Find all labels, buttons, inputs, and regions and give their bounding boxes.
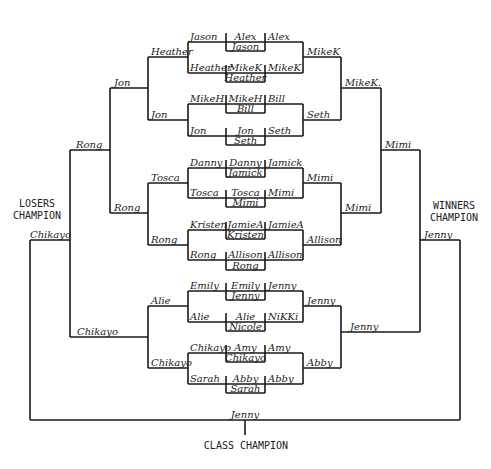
winners-r3-name: Jenny <box>348 321 379 332</box>
losers-champion-label: CHAMPION <box>13 210 61 221</box>
losers-r4-name: Rong <box>75 139 102 150</box>
winners-r4-name: Mimi <box>384 139 411 150</box>
winners-r1-name: Jenny <box>266 280 297 291</box>
losers-r1-name: Tosca <box>190 187 219 198</box>
losers-champion-name: Chikayo <box>30 229 71 240</box>
losers-r1-name: MikeH <box>189 93 224 104</box>
losers-r2-name: Jon <box>149 109 167 120</box>
losers-r1-name: Alie <box>189 311 210 322</box>
winners-r1-name: Seth <box>268 125 291 136</box>
losers-r1-name: Jon <box>188 125 206 136</box>
winners-r2-name: MikeK <box>306 46 340 57</box>
losers-r1-name: Heather <box>189 62 233 73</box>
match-bottom-name: Nicole <box>228 321 262 332</box>
losers-r1-name: Danny <box>189 157 223 168</box>
winners-names: Alex MikeK Bill Seth Jamick Mimi JamieA … <box>266 31 453 384</box>
losers-r2-name: Alie <box>150 295 171 306</box>
winners-r3-name: Mimi <box>344 202 371 213</box>
match-bottom-name: Jason <box>230 41 260 52</box>
winners-r1-name: MikeK <box>267 62 301 73</box>
losers-r1-name: Chikayo <box>190 342 231 353</box>
losers-r3-name: Chikayo <box>77 326 118 337</box>
winners-champion-name: Jenny <box>422 229 453 240</box>
center-boxes <box>226 33 265 393</box>
match-bottom-name: Jamick <box>226 167 262 178</box>
losers-r3-name: Rong <box>113 202 140 213</box>
winners-r2-name: Mimi <box>306 172 333 183</box>
class-champion-label: CLASS CHAMPION <box>204 440 288 451</box>
winners-r1-name: NiKKi <box>267 311 298 322</box>
winners-r2-name: Jenny <box>305 295 336 306</box>
losers-r1-name: Kristen <box>189 219 227 230</box>
final-lines <box>30 420 460 435</box>
winners-r2-name: Abby <box>306 357 333 368</box>
losers-r2-name: Heather <box>150 46 194 57</box>
match-bottom-name: Kristen <box>226 229 264 240</box>
winners-r1-name: Mimi <box>267 187 294 198</box>
winners-r2-name: Allison <box>306 234 341 245</box>
losers-r1-name: Emily <box>189 280 219 291</box>
losers-r2-name: Chikayo <box>151 357 192 368</box>
winners-r2-name: Seth <box>307 109 330 120</box>
winners-r3-name: MikeK. <box>344 77 381 88</box>
winners-r1-name: Abby <box>267 373 294 384</box>
match-bottom-name: Rong <box>231 260 258 271</box>
match-bottom-name: Jenny <box>229 290 260 301</box>
losers-r2-name: Tosca <box>151 172 180 183</box>
losers-r3-name: Jon <box>112 77 130 88</box>
winners-r1-name: Alex <box>267 31 290 42</box>
center-names: Alex Jason MikeK Heather MikeH Bill Jon … <box>224 31 268 394</box>
winners-champion-label: CHAMPION <box>430 212 478 223</box>
match-bottom-name: Seth <box>234 135 257 146</box>
winners-r1-name: JamieA <box>266 219 304 230</box>
losers-r2-name: Rong <box>150 234 177 245</box>
tournament-bracket: Alex Jason MikeK Heather MikeH Bill Jon … <box>0 0 491 469</box>
match-bottom-name: Bill <box>236 103 254 114</box>
match-bottom-name: Heather <box>224 72 268 83</box>
losers-r1-name: Rong <box>189 249 216 260</box>
losers-champion-label: LOSERS <box>19 198 55 209</box>
winners-r1-name: Amy <box>267 342 291 353</box>
losers-r1-name: Sarah <box>190 373 220 384</box>
match-bottom-name: Mimi <box>231 197 258 208</box>
class-champion-name: Jenny <box>229 409 260 420</box>
losers-r1-name: Jason <box>188 31 218 42</box>
winners-r1-name: Bill <box>267 93 285 104</box>
match-top-name: Allison <box>227 249 262 260</box>
winners-champion-label: WINNERS <box>433 200 475 211</box>
losers-names: Jason Heather MikeH Jon Danny Tosca Kris… <box>30 31 233 384</box>
match-bottom-name: Sarah <box>231 383 261 394</box>
winners-r1-name: Allison <box>267 249 302 260</box>
winners-r1-name: Jamick <box>266 157 302 168</box>
match-bottom-name: Chikayo <box>225 352 266 363</box>
